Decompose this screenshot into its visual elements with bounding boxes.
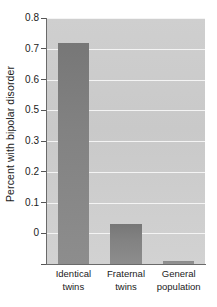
plot-area <box>47 18 205 264</box>
gridline <box>47 18 205 19</box>
y-axis: 0.80.70.60.50.30.20.10 <box>18 18 46 264</box>
bar <box>110 224 142 264</box>
y-axis-tick-label: 0.7 <box>25 42 39 56</box>
bar-chart-figure: Percent with bipolar disorder 0.80.70.60… <box>0 0 217 307</box>
y-axis-tick-label: 0.8 <box>25 11 39 25</box>
x-axis-category-label-line: Identical <box>56 268 91 279</box>
x-axis-category-label-line: twins <box>100 281 153 294</box>
y-axis-tick-label: 0.2 <box>25 165 39 179</box>
x-axis-category-label-line: Fraternal <box>107 268 145 279</box>
bar <box>163 261 195 264</box>
bar <box>58 43 90 264</box>
x-axis-category-label: Fraternaltwins <box>100 267 153 305</box>
x-axis-labels: IdenticaltwinsFraternaltwinsGeneralpopul… <box>47 267 205 305</box>
y-axis-tick-label: 0 <box>33 226 39 240</box>
y-axis-tick-label: 0.3 <box>25 134 39 148</box>
x-axis-category-label: Identicaltwins <box>47 267 100 305</box>
y-axis-tick-label: 0.5 <box>25 103 39 117</box>
x-axis-category-label-line: twins <box>47 281 100 294</box>
x-axis-category-label-line: General <box>162 268 196 279</box>
x-axis-category-label-line: population <box>152 281 205 294</box>
y-axis-tick-label: 0.1 <box>25 196 39 210</box>
y-axis-title-text: Percent with bipolar disorder <box>4 66 16 202</box>
y-axis-tick-label: 0.6 <box>25 73 39 87</box>
x-axis-line <box>46 264 206 265</box>
y-axis-title: Percent with bipolar disorder <box>0 0 20 268</box>
x-axis-category-label: Generalpopulation <box>152 267 205 305</box>
